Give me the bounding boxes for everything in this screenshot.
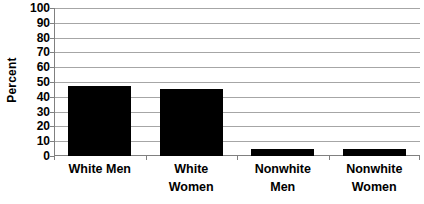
x-cat-label-line: Women <box>329 178 421 196</box>
y-tick-label: 30 <box>22 106 50 118</box>
plot-area <box>54 8 420 156</box>
y-tick-mark <box>50 8 54 9</box>
y-tick-label: 20 <box>22 120 50 132</box>
y-tick-label: 0 <box>22 150 50 162</box>
y-tick-label: 100 <box>22 2 50 14</box>
x-cat-label-line: White Men <box>54 160 146 178</box>
y-tick-mark <box>50 67 54 68</box>
y-tick-label: 40 <box>22 91 50 103</box>
x-cat-label-line: White <box>146 160 238 178</box>
y-tick-mark <box>50 112 54 113</box>
x-cat-label-line: Nonwhite <box>329 160 421 178</box>
y-tick-label: 70 <box>22 46 50 58</box>
x-category-label: White Men <box>54 160 146 178</box>
y-axis-title-label: Percent <box>5 57 19 102</box>
bar <box>343 149 406 156</box>
x-axis-category-labels: White MenWhiteWomenNonwhiteMenNonwhiteWo… <box>54 160 420 204</box>
x-category-label: WhiteWomen <box>146 160 238 196</box>
y-tick-mark <box>50 126 54 127</box>
y-tick-label: 90 <box>22 17 50 29</box>
y-tick-mark <box>50 52 54 53</box>
bar <box>160 89 223 156</box>
x-cat-label-line: Men <box>237 178 329 196</box>
y-tick-mark <box>50 23 54 24</box>
bars-layer <box>54 8 420 156</box>
x-cat-label-line: Women <box>146 178 238 196</box>
bar <box>251 149 314 156</box>
bar-chart: Percent 0102030405060708090100 White Men… <box>0 0 424 204</box>
y-tick-mark <box>50 141 54 142</box>
y-tick-mark <box>50 38 54 39</box>
y-axis-title: Percent <box>0 0 24 160</box>
y-tick-mark <box>50 97 54 98</box>
x-category-label: NonwhiteWomen <box>329 160 421 196</box>
y-tick-label: 60 <box>22 61 50 73</box>
y-tick-label: 50 <box>22 76 50 88</box>
y-tick-label: 10 <box>22 135 50 147</box>
y-tick-label: 80 <box>22 32 50 44</box>
x-cat-label-line: Nonwhite <box>237 160 329 178</box>
y-tick-mark <box>50 82 54 83</box>
y-axis-tick-labels: 0102030405060708090100 <box>22 8 50 156</box>
x-category-label: NonwhiteMen <box>237 160 329 196</box>
bar <box>68 86 131 156</box>
